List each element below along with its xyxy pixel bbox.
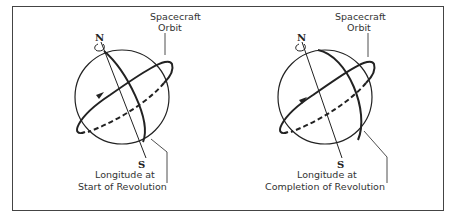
orbit-front [77,62,172,133]
longitude-label-line2: Completion of Revolution [265,181,385,192]
rotation-axis [101,42,146,158]
orbit-label-line1: Spacecraft [150,11,201,22]
longitude-label-line1: Longitude at [95,169,155,180]
longitude-label-line2: Start of Revolution [78,181,167,192]
longitude-label-line1: Longitude at [297,169,357,180]
orbit-diagram: N S Spacecraft Orbit Longitude at Start … [0,0,455,223]
orbit-label-line2: Orbit [347,22,371,33]
orbit-label-line2: Orbit [158,22,182,33]
north-pole-label: N [95,32,104,43]
north-pole-label: N [297,32,306,43]
longitude-leader-line [364,131,387,183]
panel-start-of-revolution: N S Spacecraft Orbit Longitude at Start … [75,11,201,192]
orbit-label-line1: Spacecraft [335,11,386,22]
panel-completion-of-revolution: N S Spacecraft Orbit Longitude at Comple… [265,11,387,192]
orbit-direction-arrow-icon [96,92,104,99]
